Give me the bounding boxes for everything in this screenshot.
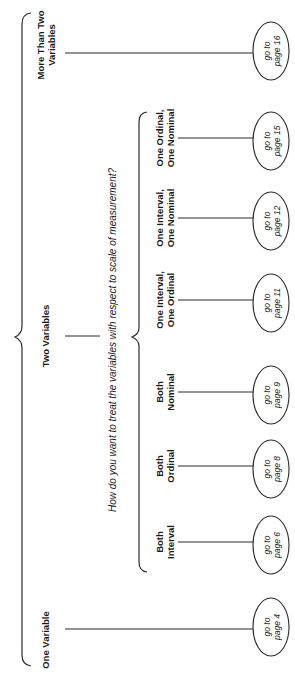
branch-label-interval-ordinal-line: One Interval, bbox=[154, 271, 165, 329]
goto-oval-interval-nominal-text-line: go to bbox=[262, 211, 272, 230]
goto-oval-both-interval-text-line: page 6 bbox=[272, 532, 282, 559]
branch-label-both-interval-line: Interval bbox=[165, 525, 176, 559]
branch-label-both-interval-line: Both bbox=[154, 531, 165, 553]
branch-label-both-nominal-line: Nominal bbox=[165, 373, 176, 410]
branch-label-interval-nominal-line: One Interval, bbox=[154, 189, 165, 247]
decision-tree-diagram: More Than TwoVariablesgo topage 16Two Va… bbox=[0, 0, 295, 679]
branch-label-ordinal-nominal: One Ordinal,One Nominal bbox=[154, 109, 176, 168]
branch-label-more-than-two-line: Variables bbox=[46, 24, 57, 66]
scale-question: How do you want to treat the variables w… bbox=[107, 168, 118, 513]
goto-oval-ordinal-nominal-text-line: page 15 bbox=[272, 125, 282, 157]
goto-oval-one-text-line: page 4 bbox=[272, 614, 282, 641]
goto-oval-interval-nominal-text-line: page 12 bbox=[272, 205, 282, 237]
branch-label-interval-ordinal-line: One Ordinal bbox=[165, 273, 176, 327]
branch-label-interval-nominal: One Interval,One Nominal bbox=[154, 189, 176, 248]
goto-oval-both-interval-text: go topage 6 bbox=[262, 532, 282, 559]
branch-label-interval-nominal-line: One Nominal bbox=[165, 189, 176, 248]
goto-oval-both-nominal-text-line: page 9 bbox=[272, 382, 282, 409]
branch-label-one-line: One Variable bbox=[40, 611, 51, 669]
goto-oval-one[interactable]: go topage 4 bbox=[253, 598, 289, 656]
branch-label-both-ordinal: BothOrdinal bbox=[154, 449, 176, 482]
goto-oval-ordinal-nominal[interactable]: go topage 15 bbox=[253, 112, 289, 170]
branch-label-more-than-two-line: More Than Two bbox=[35, 10, 46, 79]
goto-oval-interval-ordinal-text-line: go to bbox=[262, 293, 272, 312]
branch-label-more-than-two: More Than TwoVariables bbox=[35, 10, 57, 79]
goto-oval-both-interval-text-line: go to bbox=[262, 535, 272, 554]
goto-oval-more-than-two-text-line: page 16 bbox=[272, 35, 282, 67]
branch-label-one: One Variable bbox=[40, 611, 51, 669]
scale-brace bbox=[132, 112, 147, 572]
goto-oval-both-nominal-text: go topage 9 bbox=[262, 382, 282, 409]
goto-oval-both-nominal-text-line: go to bbox=[262, 385, 272, 404]
goto-oval-more-than-two-text-line: go to bbox=[262, 41, 272, 60]
goto-oval-one-text-line: go to bbox=[262, 617, 272, 636]
goto-oval-one-text: go topage 4 bbox=[262, 614, 282, 641]
branch-label-two: Two Variables bbox=[40, 305, 51, 368]
goto-oval-interval-ordinal-text-line: page 11 bbox=[272, 288, 282, 319]
goto-oval-both-ordinal-text: go topage 8 bbox=[262, 456, 282, 483]
branch-label-ordinal-nominal-line: One Nominal bbox=[165, 109, 176, 168]
top-level-brace bbox=[15, 13, 31, 666]
goto-oval-both-ordinal-text-line: page 8 bbox=[272, 456, 282, 483]
branch-label-ordinal-nominal-line: One Ordinal, bbox=[154, 109, 165, 166]
branch-label-both-ordinal-line: Both bbox=[154, 455, 165, 477]
goto-oval-both-nominal[interactable]: go topage 9 bbox=[253, 366, 289, 424]
goto-oval-ordinal-nominal-text-line: go to bbox=[262, 131, 272, 150]
branch-label-both-nominal: BothNominal bbox=[154, 373, 176, 410]
branch-label-two-line: Two Variables bbox=[40, 305, 51, 368]
goto-oval-both-interval[interactable]: go topage 6 bbox=[253, 516, 289, 574]
branch-label-both-interval: BothInterval bbox=[154, 525, 176, 559]
goto-oval-both-ordinal[interactable]: go topage 8 bbox=[253, 440, 289, 498]
goto-oval-both-ordinal-text-line: go to bbox=[262, 459, 272, 478]
branch-label-interval-ordinal: One Interval,One Ordinal bbox=[154, 271, 176, 329]
branch-label-both-ordinal-line: Ordinal bbox=[165, 449, 176, 482]
goto-oval-interval-nominal[interactable]: go topage 12 bbox=[253, 192, 289, 250]
branch-label-both-nominal-line: Both bbox=[154, 381, 165, 403]
goto-oval-interval-ordinal[interactable]: go topage 11 bbox=[253, 274, 289, 332]
goto-oval-more-than-two[interactable]: go topage 16 bbox=[253, 22, 289, 80]
